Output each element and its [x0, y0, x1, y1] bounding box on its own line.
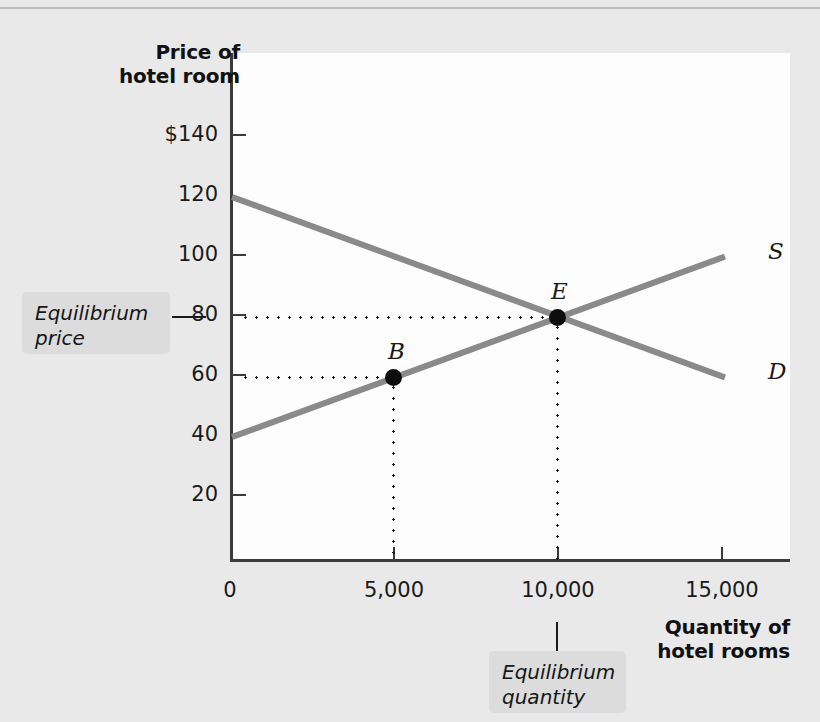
y-tick-label-140: $140	[118, 122, 218, 146]
point-b-price-guide	[240, 376, 388, 379]
equilibrium-price-callout-line2: price	[35, 326, 157, 351]
equilibrium-quantity-callout: Equilibrium quantity	[489, 651, 626, 713]
x-tick-label-15000: 15,000	[652, 578, 792, 602]
supply-curve-label: S	[768, 238, 784, 264]
equilibrium-price-callout: Equilibrium price	[22, 292, 170, 354]
x-axis-title-line1: Quantity of	[600, 615, 790, 639]
y-axis-line	[230, 53, 233, 562]
equilibrium-price-leader-line	[172, 316, 206, 318]
y-axis-title: Price of hotel room	[30, 40, 240, 89]
point-b-quantity-guide	[392, 382, 395, 560]
point-b	[385, 369, 402, 386]
y-tick-label-60: 60	[118, 362, 218, 386]
y-tick-mark-140	[233, 134, 246, 136]
y-tick-label-100: 100	[118, 242, 218, 266]
y-axis-title-line2: hotel room	[30, 64, 240, 88]
demand-curve-label: D	[768, 358, 786, 384]
equilibrium-quantity-callout-line1: Equilibrium	[502, 660, 613, 685]
y-tick-mark-20	[233, 494, 246, 496]
top-divider-rule	[0, 7, 820, 9]
equilibrium-quantity-leader-line	[556, 622, 558, 652]
equilibrium-quantity-guide	[556, 322, 559, 560]
plot-area	[232, 53, 790, 560]
y-axis-title-line1: Price of	[30, 40, 240, 64]
x-axis-line	[230, 559, 790, 562]
y-tick-label-20: 20	[118, 482, 218, 506]
x-axis-title: Quantity of hotel rooms	[600, 615, 790, 664]
point-b-label: B	[388, 338, 405, 364]
x-axis-title-line2: hotel rooms	[600, 639, 790, 663]
y-tick-mark-100	[233, 254, 246, 256]
equilibrium-price-callout-line1: Equilibrium	[35, 301, 157, 326]
x-tick-mark-15000	[721, 547, 723, 560]
equilibrium-quantity-callout-line2: quantity	[502, 685, 613, 710]
equilibrium-price-guide	[240, 316, 552, 319]
equilibrium-point-e-label: E	[551, 278, 568, 304]
x-tick-label-5000: 5,000	[324, 578, 464, 602]
figure-equilibrium-hotel-rooms: Price of hotel room Quantity of hotel ro…	[0, 0, 820, 722]
x-tick-label-10000: 10,000	[488, 578, 628, 602]
y-tick-label-40: 40	[118, 422, 218, 446]
equilibrium-point-e	[549, 309, 566, 326]
x-tick-label-0: 0	[160, 578, 300, 602]
y-tick-label-120: 120	[118, 182, 218, 206]
